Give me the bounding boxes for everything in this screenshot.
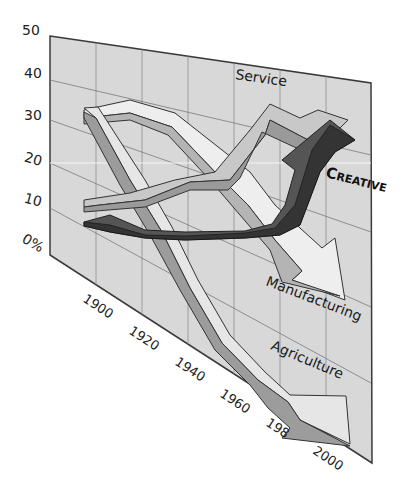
- x-tick-1920: 1920: [126, 323, 162, 354]
- y-tick-30: 30: [24, 107, 42, 123]
- x-tick-1940: 1940: [172, 354, 208, 385]
- chart: 50 40 30 20 10 0% 1900 1920 1940 1960 19…: [0, 0, 405, 489]
- y-tick-10: 10: [22, 190, 43, 210]
- x-tick-1960: 1960: [217, 386, 253, 417]
- x-tick-1900: 1900: [80, 291, 116, 322]
- y-tick-20: 20: [23, 149, 44, 169]
- y-tick-40: 40: [24, 65, 42, 81]
- x-tick-2000: 2000: [310, 443, 346, 474]
- y-tick-50: 50: [22, 22, 40, 38]
- y-axis-labels: 50 40 30 20 10 0%: [20, 22, 47, 255]
- y-tick-0: 0%: [20, 230, 47, 255]
